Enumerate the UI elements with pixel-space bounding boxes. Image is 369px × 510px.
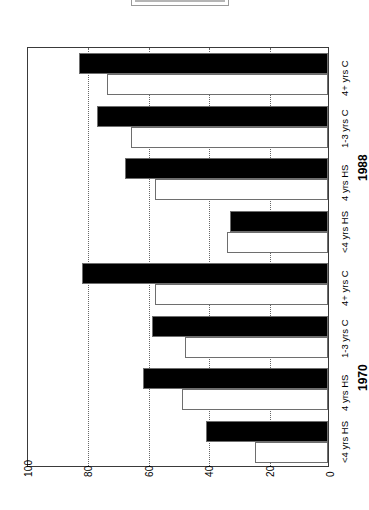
bar-black [206, 421, 328, 442]
axis-tick-label: 80 [83, 465, 94, 477]
rotated-chart: 0204060801004+ yrs C1-3 yrs C4 yrs HS<4 … [0, 0, 369, 510]
category-label: <4 yrs HS [339, 421, 350, 463]
bar-white [131, 127, 328, 148]
category-label: 4 yrs HS [339, 374, 350, 410]
category-label: 4 yrs HS [339, 164, 350, 200]
axis-tick-label: 60 [144, 465, 155, 477]
bar-black [79, 53, 328, 74]
axis-tick-label: 20 [265, 465, 276, 477]
category-label: <4 yrs HS [339, 211, 350, 253]
group-label: 1988 [356, 154, 369, 181]
bar-black [152, 316, 328, 337]
bar-white [155, 284, 328, 305]
bar-white [255, 442, 329, 463]
axis-tick-label: 40 [204, 465, 215, 477]
axis-tick-label: 0 [325, 471, 336, 477]
axis-tick-label: 100 [23, 460, 34, 477]
plot-area [27, 47, 329, 467]
bar-black [230, 211, 328, 232]
category-label: 1-3 yrs C [339, 319, 350, 358]
bar-black [125, 158, 328, 179]
bar-black [97, 106, 328, 127]
chart-page: 0204060801004+ yrs C1-3 yrs C4 yrs HS<4 … [0, 0, 369, 510]
category-label: 4+ yrs C [339, 60, 350, 96]
gridline [88, 48, 89, 466]
bar-white [185, 337, 328, 358]
category-label: 4+ yrs C [339, 270, 350, 306]
bar-black [82, 263, 328, 284]
bar-white [182, 389, 328, 410]
group-label: 1970 [356, 364, 369, 391]
bar-black [143, 368, 328, 389]
bar-white [227, 232, 328, 253]
category-label: 1-3 yrs C [339, 109, 350, 148]
bar-white [155, 179, 328, 200]
bar-white [107, 74, 328, 95]
